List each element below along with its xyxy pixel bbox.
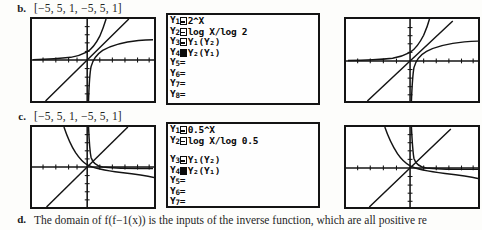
problem-c-letter: c. (0, 110, 34, 122)
y-list-row[interactable]: Y1 2^X (170, 16, 318, 27)
problem-b-window-label: [−5, 5, 1, −5, 5, 1] (34, 2, 122, 14)
y1-expression-b[interactable]: 2^X (188, 16, 204, 27)
y-list-row[interactable]: Y2 log X/log 0.5 (170, 136, 318, 147)
problem-c-header: c. [−5, 5, 1, −5, 5, 1] (0, 108, 122, 124)
y-list-row[interactable]: Y8 (170, 90, 318, 101)
calculator-y-editor-c[interactable]: Y1 0.5^X Y2 log X/log 0.5 Y3 Y₁(Y₂) Y4 (166, 122, 320, 208)
caption-d-text: The domain of f(f−1(x)) is the inputs of… (34, 213, 427, 227)
textbook-figure-page: b. [−5, 5, 1, −5, 5, 1] (0, 0, 482, 230)
calculator-graph-c-right (344, 125, 480, 209)
y2-expression-c[interactable]: log X/log 0.5 (188, 136, 258, 147)
y4-expression-c[interactable]: Y₂(Y₁) (188, 166, 221, 177)
problem-row-c: c. [−5, 5, 1, −5, 5, 1] (0, 108, 482, 208)
y-list-row[interactable]: Y6 (170, 187, 318, 198)
curve-log-base-half (411, 127, 478, 169)
y3-plotstyle-icon-c[interactable] (180, 156, 187, 164)
y-list-row[interactable]: Y1 0.5^X (170, 125, 318, 136)
y-list-row[interactable]: Y7 (170, 197, 318, 208)
problem-row-b: b. [−5, 5, 1, −5, 5, 1] (0, 0, 482, 108)
y4-expression-b[interactable]: Y₂(Y₁) (188, 48, 221, 59)
caption-d-letter: d. (0, 213, 34, 225)
curve-exponential-half-x (385, 127, 478, 178)
calculator-graph-c-left (30, 125, 156, 209)
y-list-row[interactable]: Y3 Y₁(Y₂) (170, 155, 318, 166)
y-list-row[interactable]: Y6 (170, 69, 318, 80)
calculator-graph-b-right (344, 17, 480, 103)
y3-expression-c[interactable]: Y₁(Y₂) (188, 155, 221, 166)
y-list-row[interactable]: Y4 Y₂(Y₁) (170, 166, 318, 177)
problem-b-letter: b. (0, 2, 34, 14)
calculator-y-editor-b[interactable]: Y1 2^X Y2 log X/log 2 Y3 Y₁(Y₂) Y4 (166, 13, 320, 105)
graph-b-right-svg (346, 19, 478, 101)
y2-plotstyle-icon-c[interactable] (180, 137, 187, 145)
y2-plotstyle-icon-b[interactable] (180, 28, 187, 36)
graph-b-left-svg (32, 19, 154, 101)
y-equation-list-b[interactable]: Y1 2^X Y2 log X/log 2 Y3 Y₁(Y₂) Y4 (168, 15, 318, 103)
curve-exponential-half-x (64, 127, 154, 177)
y1-plotstyle-icon-c[interactable] (180, 126, 187, 134)
caption-d: d. The domain of f(f−1(x)) is the inputs… (0, 213, 482, 230)
problem-c-window-label: [−5, 5, 1, −5, 5, 1] (34, 110, 122, 122)
y-list-row[interactable]: Y3 Y₁(Y₂) (170, 37, 318, 48)
y8-label-b: Y8 (170, 89, 180, 102)
y-list-row[interactable]: Y7 (170, 79, 318, 90)
y8-equals-icon-b[interactable] (180, 91, 187, 99)
graph-c-right-svg (346, 127, 478, 207)
y7-label-c: Y7 (170, 196, 180, 208)
y7-equals-icon-c[interactable] (180, 198, 187, 206)
y-list-row[interactable]: Y5 (170, 176, 318, 187)
y-list-row[interactable]: Y5 (170, 58, 318, 69)
y1-plotstyle-icon-b[interactable] (180, 17, 187, 25)
calculator-graph-b-left (30, 17, 156, 103)
problem-b-header: b. [−5, 5, 1, −5, 5, 1] (0, 0, 122, 16)
y3-plotstyle-icon-b[interactable] (180, 38, 187, 46)
y3-expression-b[interactable]: Y₁(Y₂) (188, 37, 221, 48)
y2-label-c: Y2 (170, 135, 180, 148)
curve-exponential-2x (33, 19, 106, 60)
graph-c-left-svg (32, 127, 154, 207)
y1-expression-c[interactable]: 0.5^X (188, 125, 215, 136)
y-list-row[interactable]: Y4 Y₂(Y₁) (170, 48, 318, 59)
y-equation-list-c[interactable]: Y1 0.5^X Y2 log X/log 0.5 Y3 Y₁(Y₂) Y4 (168, 124, 318, 206)
